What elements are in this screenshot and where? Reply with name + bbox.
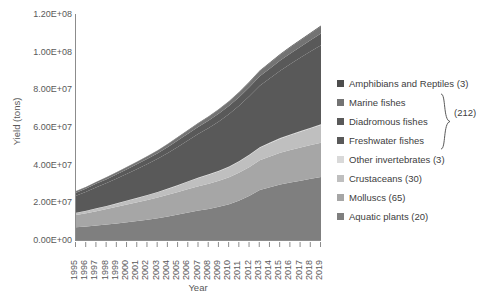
y-axis-tick-labels: 0.00E+002.00E+074.00E+076.00E+078.00E+07… <box>18 12 72 240</box>
x-axis-tick-label: 2003 <box>151 260 161 280</box>
x-axis-tick-label: 1997 <box>89 260 99 280</box>
x-axis-tick-label: 2000 <box>120 260 130 280</box>
x-axis-tick-label: 1996 <box>79 260 89 280</box>
legend-swatch-icon <box>337 99 344 106</box>
legend-item-label: Molluscs (65) <box>349 193 406 203</box>
x-axis-tick-label: 2001 <box>130 260 140 280</box>
chart-legend: Amphibians and Reptiles (3)Marine fishes… <box>337 74 487 226</box>
legend-item[interactable]: Amphibians and Reptiles (3) <box>337 74 487 93</box>
legend-swatch-icon <box>337 137 344 144</box>
legend-swatch-icon <box>337 80 344 87</box>
x-axis-tick-label: 2004 <box>161 260 171 280</box>
legend-swatch-icon <box>337 194 344 201</box>
legend-item-label: Diadromous fishes <box>349 117 428 127</box>
y-axis-tick-label: 1.20E+08 <box>18 9 72 19</box>
x-axis-tick-label: 2014 <box>263 260 273 280</box>
x-axis-tick-label: 1995 <box>69 260 79 280</box>
x-axis-tick-label: 2017 <box>294 260 304 280</box>
y-axis-tick-label: 0.00E+00 <box>18 235 72 245</box>
x-axis-tick-label: 2016 <box>283 260 293 280</box>
stacked-area-chart-figure: Yield (tons) 0.00E+002.00E+074.00E+076.0… <box>0 0 488 300</box>
x-axis-tick-label: 2012 <box>243 260 253 280</box>
legend-item-label: Amphibians and Reptiles (3) <box>349 79 468 89</box>
legend-swatch-icon <box>337 213 344 220</box>
y-axis-tick-label: 1.00E+08 <box>18 47 72 57</box>
y-axis-tick-label: 4.00E+07 <box>18 160 72 170</box>
legend-item[interactable]: Other invertebrates (3) <box>337 150 487 169</box>
legend-swatch-icon <box>337 175 344 182</box>
x-axis-tick-label: 2002 <box>140 260 150 280</box>
legend-item[interactable]: Crustaceans (30) <box>337 169 487 188</box>
x-axis-tick-label: 1999 <box>110 260 120 280</box>
y-axis-tick-label: 8.00E+07 <box>18 84 72 94</box>
legend-brace-icon <box>440 93 452 150</box>
x-axis-tick-label: 2013 <box>253 260 263 280</box>
x-axis-tick-labels: 1995199619971998199920002001200220032004… <box>75 242 321 280</box>
legend-item-label: Aquatic plants (20) <box>349 212 428 222</box>
x-axis-tick-marks <box>75 242 321 248</box>
plot-svg <box>76 14 321 240</box>
legend-item-label: Crustaceans (30) <box>349 174 422 184</box>
y-axis-tick-label: 6.00E+07 <box>18 122 72 132</box>
x-axis-tick-label: 2005 <box>171 260 181 280</box>
legend-brace-label: (212) <box>454 107 476 118</box>
legend-item[interactable]: Freshwater fishes <box>337 131 487 150</box>
legend-item-label: Marine fishes <box>349 98 406 108</box>
legend-swatch-icon <box>337 156 344 163</box>
x-axis-tick-label: 1998 <box>100 260 110 280</box>
legend-swatch-icon <box>337 118 344 125</box>
x-axis-tick-label: 2007 <box>192 260 202 280</box>
legend-item-label: Other invertebrates (3) <box>349 155 445 165</box>
legend-item-label: Freshwater fishes <box>349 136 424 146</box>
x-axis-tick-label: 2015 <box>273 260 283 280</box>
y-axis-tick-label: 2.00E+07 <box>18 197 72 207</box>
legend-item[interactable]: Aquatic plants (20) <box>337 207 487 226</box>
x-axis-tick-label: 2018 <box>304 260 314 280</box>
plot-area <box>75 14 321 241</box>
x-axis-tick-label: 2011 <box>232 261 242 280</box>
x-axis-tick-label: 2008 <box>202 260 212 280</box>
x-axis-title: Year <box>75 282 321 293</box>
x-axis-tick-label: 2009 <box>212 260 222 280</box>
x-axis-tick-label: 2010 <box>222 260 232 280</box>
x-axis-tick-label: 2006 <box>181 260 191 280</box>
legend-item[interactable]: Molluscs (65) <box>337 188 487 207</box>
x-axis-tick-label: 2019 <box>314 260 324 280</box>
